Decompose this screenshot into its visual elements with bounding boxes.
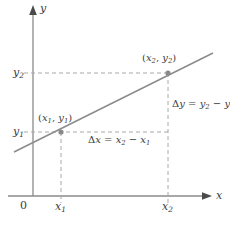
delta-y-annotation: Δy = y2 − y1 xyxy=(172,99,230,111)
point-1-label: (x1, y1) xyxy=(38,113,72,125)
x-axis-label: x xyxy=(216,190,222,201)
point-2-label: (x2, y2) xyxy=(142,53,176,65)
y-axis-label: y xyxy=(40,3,46,14)
point-2-marker xyxy=(165,70,170,75)
slope-diagram: y x 0 x1 x2 y1 y2 (x1, y1) (x2, y2) Δx =… xyxy=(0,0,230,232)
diagram-canvas xyxy=(0,0,230,232)
y1-tick-label: y1 xyxy=(13,126,24,139)
delta-x-annotation: Δx = x2 − x1 xyxy=(88,135,150,147)
point-1-marker xyxy=(58,129,63,134)
x1-tick-label: x1 xyxy=(55,201,66,214)
y-axis xyxy=(29,5,37,196)
x2-tick-label: x2 xyxy=(162,201,173,214)
y2-tick-label: y2 xyxy=(13,67,24,80)
x-axis xyxy=(8,192,212,200)
origin-label: 0 xyxy=(20,200,27,211)
